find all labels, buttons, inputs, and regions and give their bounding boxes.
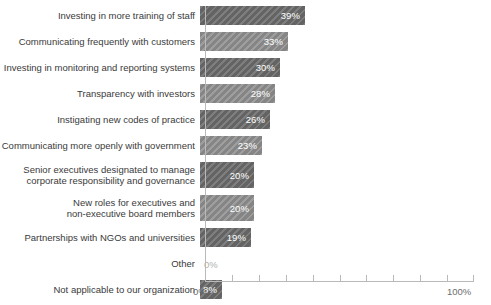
chart-row: Not applicable to our organization 8% [0,280,491,299]
bar: 19% [200,228,251,247]
category-label: Investing in monitoring and reporting sy… [0,62,200,74]
axis-tick [286,275,287,281]
bar-track: 20% [200,162,491,188]
bar-track: 23% [200,136,491,155]
bar-track: 30% [200,58,491,77]
y-axis-line [205,6,206,281]
category-label: Transparency with investors [0,88,200,100]
bar-value-label: 20% [230,170,254,181]
category-label: Senior executives designated to manage c… [0,164,200,187]
chart-row: Communicating more openly with governmen… [0,136,491,155]
axis-max-label: 100% [447,286,471,297]
axis-min-label: 0% [193,286,207,297]
axis-tick [473,275,474,281]
bar-track: 20% [200,195,491,221]
axis-tick [420,275,421,281]
chart-row: Transparency with investors 28% [0,84,491,103]
chart-row: Partnerships with NGOs and universities … [0,228,491,247]
bar-value-label: 30% [256,62,280,73]
x-axis-line [205,281,474,282]
bar: 28% [200,84,275,103]
category-label: Partnerships with NGOs and universities [0,232,200,244]
chart-row: Investing in monitoring and reporting sy… [0,58,491,77]
bar-track: 33% [200,32,491,51]
bar: 33% [200,32,288,51]
horizontal-bar-chart: Investing in more training of staff 39% … [0,0,491,305]
axis-tick [340,275,341,281]
bar-track: 28% [200,84,491,103]
bar-value-label: 19% [227,232,251,243]
chart-row: Senior executives designated to manage c… [0,162,491,188]
axis-tick [366,275,367,281]
bar-value-label: 23% [238,140,262,151]
category-label: Communicating frequently with customers [0,36,200,48]
axis-tick [259,275,260,281]
axis-tick [447,275,448,281]
axis-tick [232,275,233,281]
bar: 20% [200,162,254,188]
bar: 23% [200,136,262,155]
bar: 39% [200,6,305,25]
bar-value-label: 20% [230,203,254,214]
category-label: Not applicable to our organization [0,284,200,296]
chart-row: Instigating new codes of practice 26% [0,110,491,129]
category-label: Investing in more training of staff [0,10,200,22]
bar-value-label: 28% [251,88,275,99]
bar-value-label: 33% [264,36,288,47]
bar-track: 19% [200,228,491,247]
bar: 30% [200,58,280,77]
bar-track: 0% [200,254,491,273]
category-label: Instigating new codes of practice [0,114,200,126]
chart-row: New roles for executives and non-executi… [0,195,491,221]
category-label: Communicating more openly with governmen… [0,140,200,152]
bar: 20% [200,195,254,221]
axis-tick [393,275,394,281]
category-label: Other [0,258,200,270]
bar-track: 26% [200,110,491,129]
axis-tick [313,275,314,281]
bar: 26% [200,110,270,129]
bar-value-label: 0% [204,258,218,269]
bar-value-label: 39% [281,10,305,21]
bar-rows: Investing in more training of staff 39% … [0,6,491,305]
chart-row: Investing in more training of staff 39% [0,6,491,25]
chart-row: Other 0% [0,254,491,273]
bar-track: 39% [200,6,491,25]
category-label: New roles for executives and non-executi… [0,197,200,220]
bar-value-label: 26% [246,114,270,125]
chart-row: Communicating frequently with customers … [0,32,491,51]
